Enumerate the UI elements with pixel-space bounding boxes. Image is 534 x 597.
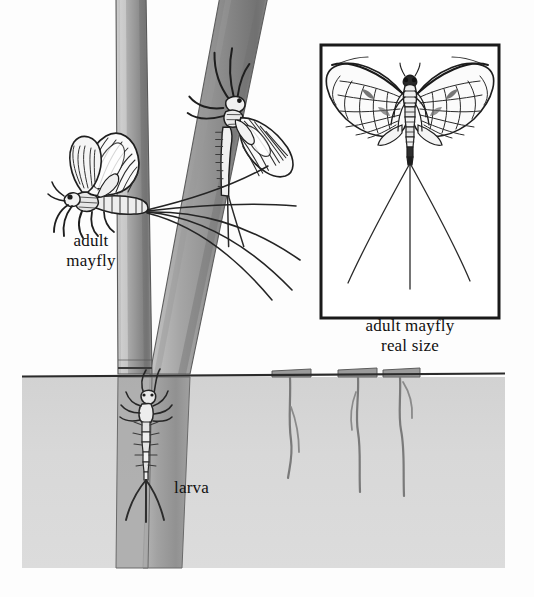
mayfly-illustration-figure: adult mayfly adult mayfly real size larv… <box>0 0 534 597</box>
label-adult-mayfly-real-size: adult mayfly real size <box>320 316 500 356</box>
water-body <box>22 377 505 568</box>
inset-box <box>321 45 499 318</box>
scene-layer <box>0 0 534 597</box>
label-larva: larva <box>174 478 254 498</box>
label-adult-mayfly: adult mayfly <box>44 231 138 271</box>
